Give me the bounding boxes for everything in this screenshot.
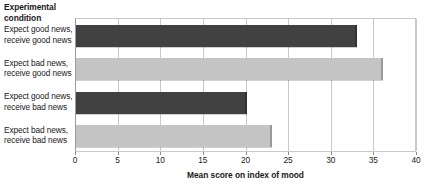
- category-label-line-2: receive bad news: [4, 102, 73, 113]
- axis-tick-label: 15: [198, 155, 207, 166]
- axis-tick-label: 30: [326, 155, 335, 166]
- bar-end-cap: [245, 92, 247, 114]
- category-label-line-2: receive bad news: [4, 135, 73, 146]
- bar-end-cap: [270, 125, 272, 147]
- bar: [76, 25, 357, 47]
- category-label-line-2: receive good news: [4, 35, 73, 46]
- bar-shadow: [76, 147, 272, 148]
- axis-tick-label: 25: [284, 155, 293, 166]
- category-label: Expect bad news,receive bad news: [4, 125, 73, 146]
- bar: [76, 58, 383, 80]
- value-axis-title: Mean score on index of mood: [75, 170, 416, 180]
- plot-area: [75, 18, 416, 152]
- category-label: Expect good news,receive bad news: [4, 91, 73, 112]
- axis-tick-label: 5: [115, 155, 120, 166]
- gridline: [416, 19, 417, 151]
- bar-shadow: [76, 47, 357, 48]
- bar-end-cap: [381, 58, 383, 80]
- bar-end-cap: [355, 25, 357, 47]
- category-label: Expect good news,receive good news: [4, 24, 73, 45]
- bar-chart-figure: Experimental condition Expect good news,…: [0, 0, 448, 192]
- axis-tick-label: 40: [411, 155, 420, 166]
- category-label-line-1: Expect good news,: [4, 91, 73, 102]
- bar-shadow: [76, 114, 247, 115]
- category-label-line-1: Expect bad news,: [4, 125, 73, 136]
- category-label-line-1: Expect good news,: [4, 24, 73, 35]
- category-label-line-1: Expect bad news,: [4, 58, 73, 69]
- category-label-list: Expect good news,receive good newsExpect…: [4, 18, 73, 152]
- axis-tick-label: 0: [73, 155, 78, 166]
- axis-tick-label: 20: [241, 155, 250, 166]
- category-label-line-2: receive good news: [4, 68, 73, 79]
- bar: [76, 125, 272, 147]
- axis-tick-label: 35: [369, 155, 378, 166]
- bar: [76, 92, 247, 114]
- bar-shadow: [76, 80, 383, 81]
- gridline: [373, 19, 374, 151]
- category-label: Expect bad news,receive good news: [4, 58, 73, 79]
- value-axis: 0510152025303540: [75, 152, 416, 170]
- category-axis-title-line-1: Experimental: [4, 2, 84, 13]
- axis-tick-label: 10: [156, 155, 165, 166]
